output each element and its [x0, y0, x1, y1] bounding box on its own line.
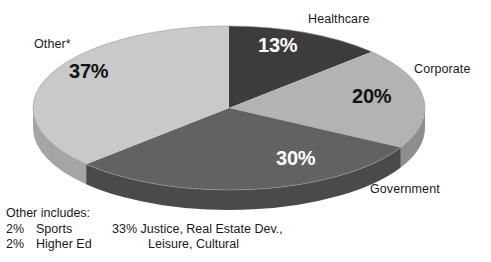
- footnote-row-percent: 2%: [6, 222, 32, 238]
- label-government: Government: [370, 182, 440, 196]
- footnote-row: 2% Higher Ed Leisure, Cultural: [6, 237, 486, 253]
- footnote-row-label: Higher Ed: [36, 237, 92, 253]
- value-label-healthcare: 13%: [258, 34, 297, 57]
- value-label-other: 37%: [69, 60, 108, 83]
- value-label-corporate: 20%: [352, 85, 391, 108]
- value-label-government: 30%: [276, 147, 315, 170]
- pie-chart: Healthcare Corporate Government Other* 1…: [0, 0, 491, 262]
- footnote-row: 2% Sports 33% Justice, Real Estate Dev.,: [6, 222, 486, 238]
- footnote-other-line-1: 33% Justice, Real Estate Dev.,: [112, 222, 283, 238]
- footnote-row-percent: 2%: [6, 237, 32, 253]
- footnote-row-label: Sports: [36, 222, 72, 238]
- label-other: Other*: [34, 37, 71, 51]
- footnote-other-line-2: Leisure, Cultural: [148, 237, 239, 253]
- label-corporate: Corporate: [414, 62, 471, 76]
- footnote-title: Other includes:: [6, 206, 90, 222]
- label-healthcare: Healthcare: [308, 12, 369, 26]
- footnote-block: Other includes: 2% Sports 33% Justice, R…: [6, 206, 486, 253]
- footnote-title-row: Other includes:: [6, 206, 486, 222]
